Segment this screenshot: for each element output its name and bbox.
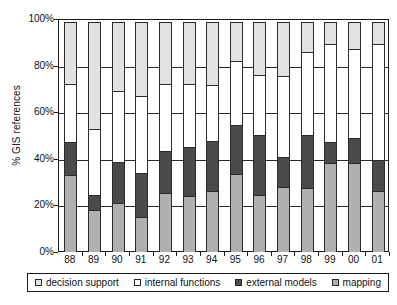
bar-segment-external-models[interactable] bbox=[206, 141, 219, 192]
x-axis-tick-label: 01 bbox=[365, 254, 389, 266]
bar-segment-internal-functions[interactable] bbox=[112, 91, 125, 163]
x-axis-tickmark bbox=[389, 252, 390, 256]
bar-segment-internal-functions[interactable] bbox=[159, 84, 172, 152]
bar-segment-mapping[interactable] bbox=[230, 174, 243, 252]
bar-segment-external-models[interactable] bbox=[135, 173, 148, 218]
bar-01[interactable] bbox=[372, 18, 385, 251]
bar-segment-external-models[interactable] bbox=[348, 138, 361, 165]
x-axis-tick-label: 92 bbox=[152, 254, 176, 266]
bar-segment-mapping[interactable] bbox=[348, 163, 361, 252]
bar-segment-decision-support[interactable] bbox=[230, 22, 243, 62]
bar-96[interactable] bbox=[253, 18, 266, 251]
legend-item-mapping[interactable]: mapping bbox=[332, 278, 381, 288]
bar-segment-mapping[interactable] bbox=[253, 195, 266, 252]
x-axis-tick-label: 95 bbox=[223, 254, 247, 266]
bar-93[interactable] bbox=[183, 18, 196, 251]
bar-89[interactable] bbox=[88, 18, 101, 251]
bar-segment-decision-support[interactable] bbox=[324, 22, 337, 45]
x-axis-tickmark bbox=[82, 252, 83, 256]
bar-segment-internal-functions[interactable] bbox=[277, 76, 290, 159]
legend-item-internal[interactable]: internal functions bbox=[134, 278, 221, 288]
x-axis-tick-label: 91 bbox=[129, 254, 153, 266]
bar-segment-decision-support[interactable] bbox=[301, 22, 314, 53]
bar-segment-mapping[interactable] bbox=[88, 210, 101, 252]
x-axis-tick-label: 93 bbox=[176, 254, 200, 266]
bar-segment-external-models[interactable] bbox=[112, 162, 125, 204]
legend-swatch-icon bbox=[332, 279, 339, 286]
bar-segment-mapping[interactable] bbox=[277, 187, 290, 252]
bar-92[interactable] bbox=[159, 18, 172, 251]
bar-segment-mapping[interactable] bbox=[159, 193, 172, 252]
bar-segment-internal-functions[interactable] bbox=[372, 44, 385, 161]
bar-90[interactable] bbox=[112, 18, 125, 251]
legend-item-decision[interactable]: decision support bbox=[35, 278, 119, 288]
bar-segment-decision-support[interactable] bbox=[206, 22, 219, 86]
x-axis-tick-label: 00 bbox=[342, 254, 366, 266]
bar-segment-decision-support[interactable] bbox=[277, 22, 290, 77]
bar-segment-external-models[interactable] bbox=[230, 125, 243, 175]
bar-segment-internal-functions[interactable] bbox=[64, 84, 77, 143]
x-axis-tickmark bbox=[271, 252, 272, 256]
bars-layer bbox=[59, 20, 388, 251]
bar-segment-decision-support[interactable] bbox=[135, 22, 148, 97]
legend-item-external[interactable]: external models bbox=[235, 278, 317, 288]
bar-segment-internal-functions[interactable] bbox=[324, 44, 337, 143]
x-axis-tickmark bbox=[342, 252, 343, 256]
bar-segment-internal-functions[interactable] bbox=[301, 52, 314, 136]
bar-segment-internal-functions[interactable] bbox=[206, 85, 219, 142]
bar-segment-external-models[interactable] bbox=[88, 195, 101, 211]
x-axis-tickmark bbox=[365, 252, 366, 256]
bar-segment-external-models[interactable] bbox=[183, 147, 196, 197]
x-axis-tick-labels: 8889909192939495969798990001 bbox=[58, 254, 389, 268]
bar-segment-external-models[interactable] bbox=[159, 151, 172, 194]
bar-94[interactable] bbox=[206, 18, 219, 251]
bar-segment-internal-functions[interactable] bbox=[135, 96, 148, 174]
bar-97[interactable] bbox=[277, 18, 290, 251]
bar-segment-decision-support[interactable] bbox=[88, 22, 101, 130]
chart-legend: decision supportinternal functionsextern… bbox=[27, 273, 389, 292]
bar-segment-external-models[interactable] bbox=[372, 160, 385, 193]
bar-segment-decision-support[interactable] bbox=[64, 22, 77, 85]
bar-segment-external-models[interactable] bbox=[64, 142, 77, 176]
bar-segment-internal-functions[interactable] bbox=[253, 75, 266, 137]
bar-88[interactable] bbox=[64, 18, 77, 251]
y-axis-tick-label: 40% bbox=[18, 154, 54, 164]
bar-segment-internal-functions[interactable] bbox=[183, 84, 196, 148]
bar-segment-mapping[interactable] bbox=[64, 175, 77, 252]
bar-segment-internal-functions[interactable] bbox=[348, 49, 361, 139]
bar-segment-external-models[interactable] bbox=[277, 157, 290, 187]
bar-segment-external-models[interactable] bbox=[301, 135, 314, 189]
bar-segment-decision-support[interactable] bbox=[183, 22, 196, 85]
bar-segment-mapping[interactable] bbox=[112, 203, 125, 252]
bar-segment-mapping[interactable] bbox=[324, 163, 337, 252]
bar-segment-decision-support[interactable] bbox=[348, 22, 361, 50]
bar-00[interactable] bbox=[348, 18, 361, 251]
y-axis-tick-labels: 0%20%40%60%80%100% bbox=[14, 0, 54, 305]
y-axis-tickmark bbox=[54, 252, 58, 253]
bar-segment-decision-support[interactable] bbox=[253, 22, 266, 76]
bar-segment-external-models[interactable] bbox=[253, 135, 266, 196]
bar-segment-mapping[interactable] bbox=[372, 191, 385, 252]
bar-segment-mapping[interactable] bbox=[183, 196, 196, 252]
bar-segment-mapping[interactable] bbox=[206, 191, 219, 252]
y-axis-tick-label: 20% bbox=[18, 200, 54, 210]
x-axis-tick-label: 94 bbox=[200, 254, 224, 266]
x-axis-tick-label: 88 bbox=[58, 254, 82, 266]
bar-segment-mapping[interactable] bbox=[135, 217, 148, 252]
stacked-bar-chart: % GIS references 0%20%40%60%80%100% 8889… bbox=[0, 0, 397, 305]
bar-segment-internal-functions[interactable] bbox=[88, 129, 101, 195]
bar-98[interactable] bbox=[301, 18, 314, 251]
y-axis-tick-label: 0% bbox=[18, 247, 54, 257]
bar-segment-mapping[interactable] bbox=[301, 188, 314, 252]
bar-segment-decision-support[interactable] bbox=[112, 22, 125, 92]
x-axis-tickmark bbox=[247, 252, 248, 256]
bar-91[interactable] bbox=[135, 18, 148, 251]
legend-swatch-icon bbox=[35, 279, 42, 286]
bar-segment-decision-support[interactable] bbox=[159, 22, 172, 85]
bar-segment-decision-support[interactable] bbox=[372, 22, 385, 45]
bar-segment-internal-functions[interactable] bbox=[230, 61, 243, 126]
bar-99[interactable] bbox=[324, 18, 337, 251]
bar-segment-external-models[interactable] bbox=[324, 142, 337, 164]
x-axis-tickmark bbox=[200, 252, 201, 256]
bar-95[interactable] bbox=[230, 18, 243, 251]
